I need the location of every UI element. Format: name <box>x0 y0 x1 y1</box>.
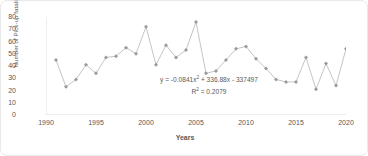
data-point-marker <box>194 20 198 24</box>
y-tick-label: 80 <box>0 13 16 21</box>
trendline-equation-annotation: y = -0.0841x2 + 336.88x - 337497 R2 = 0.… <box>119 73 299 97</box>
r-squared-line: R2 = 0.2079 <box>119 85 299 97</box>
x-axis-title: Years <box>1 134 368 141</box>
x-tick-label: 1995 <box>76 119 116 126</box>
equation-suffix: + 336.88x - 337497 <box>199 76 258 83</box>
data-point-marker <box>304 55 308 59</box>
plot-area <box>46 17 346 115</box>
axis-lines <box>46 17 346 115</box>
y-tick-label: 60 <box>0 38 16 46</box>
data-point-marker <box>334 84 338 88</box>
y-tick-label: 0 <box>0 111 16 119</box>
r-squared-value: = 0.2079 <box>199 88 227 95</box>
y-tick-label: 40 <box>0 62 16 70</box>
data-point-marker <box>154 63 158 67</box>
x-tick-label: 2005 <box>176 119 216 126</box>
x-tick-label: 2010 <box>226 119 266 126</box>
y-tick-label: 70 <box>0 25 16 33</box>
x-tick-label: 2020 <box>326 119 366 126</box>
data-point-marker <box>314 87 318 91</box>
data-point-marker <box>54 58 58 62</box>
equation-line: y = -0.0841x2 + 336.88x - 337497 <box>119 73 299 85</box>
data-point-marker <box>324 62 328 66</box>
y-tick-label: 10 <box>0 99 16 107</box>
data-point-marker <box>134 52 138 56</box>
y-tick-label: 50 <box>0 50 16 58</box>
data-point-marker <box>144 25 148 29</box>
chart-svg <box>46 17 346 115</box>
x-tick-label: 1990 <box>26 119 66 126</box>
y-tick-label: 30 <box>0 74 16 82</box>
x-tick-label: 2015 <box>276 119 316 126</box>
equation-prefix: y = -0.0841x <box>160 76 196 83</box>
data-point-marker <box>344 47 346 51</box>
y-tick-label: 20 <box>0 87 16 95</box>
chart-container: Number of Pick-up fatalities 01020304050… <box>0 0 368 156</box>
x-tick-label: 2000 <box>126 119 166 126</box>
